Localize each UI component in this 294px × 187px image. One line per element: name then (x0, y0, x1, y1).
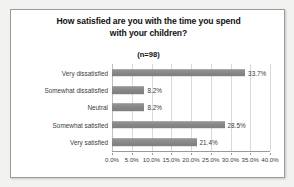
x-tick-label: 20.0% (182, 156, 199, 163)
bar (112, 86, 144, 94)
bar (112, 69, 245, 77)
category-label: Somewhat satisfied (53, 121, 108, 128)
x-tick-mark (270, 153, 271, 155)
bar-value-label: 28.5% (228, 121, 246, 128)
x-tick-mark (112, 153, 113, 155)
plot-area: Very dissatisfied33.7%Somewhat dissatisf… (112, 64, 270, 151)
x-tick-label: 30.0% (222, 156, 239, 163)
chart-title-line-1: How satisfied are you with the time you … (19, 16, 278, 28)
x-tick-label: 40.0% (261, 156, 278, 163)
x-tick-label: 10.0% (143, 156, 160, 163)
x-tick-mark (250, 153, 251, 155)
bar-row: Neutral8.2% (112, 99, 270, 116)
bar-row: Very satisfied21.4% (112, 134, 270, 151)
chart-container: How satisfied are you with the time you … (10, 9, 285, 178)
category-label: Very dissatisfied (62, 69, 108, 76)
bar-value-label: 33.7% (248, 69, 266, 76)
bar-row: Somewhat dissatisfied8.2% (112, 81, 270, 98)
x-tick-label: 0.0% (105, 156, 119, 163)
x-tick-mark (152, 153, 153, 155)
x-axis-tick-labels: 0.0%5.0%10.0%15.0%20.0%25.0%30.0%35.0%40… (112, 153, 270, 165)
bar-value-label: 8.2% (147, 87, 162, 94)
x-tick-label: 35.0% (242, 156, 259, 163)
x-tick-label: 25.0% (202, 156, 219, 163)
plot-inner: Very dissatisfied33.7%Somewhat dissatisf… (112, 64, 270, 151)
category-label: Somewhat dissatisfied (44, 87, 108, 94)
x-tick-label: 5.0% (125, 156, 139, 163)
category-label: Very satisfied (70, 139, 108, 146)
screenshot-root: How satisfied are you with the time you … (0, 0, 294, 187)
x-tick-label: 15.0% (163, 156, 180, 163)
x-axis-line (112, 151, 270, 152)
chart-title-line-2: with your children? (19, 28, 278, 40)
bar-value-label: 21.4% (200, 139, 218, 146)
x-tick-mark (191, 153, 192, 155)
bar (112, 121, 225, 129)
bar (112, 104, 144, 112)
chart-subtitle-sample-size: (n=98) (19, 50, 278, 59)
x-tick-mark (211, 153, 212, 155)
bar-value-label: 8.2% (147, 104, 162, 111)
x-tick-mark (171, 153, 172, 155)
chart-title: How satisfied are you with the time you … (19, 16, 278, 39)
x-tick-mark (231, 153, 232, 155)
gridline (270, 64, 271, 151)
bar (112, 138, 197, 146)
bar-row: Somewhat satisfied28.5% (112, 116, 270, 133)
bar-row: Very dissatisfied33.7% (112, 64, 270, 81)
x-tick-mark (132, 153, 133, 155)
category-label: Neutral (87, 104, 108, 111)
